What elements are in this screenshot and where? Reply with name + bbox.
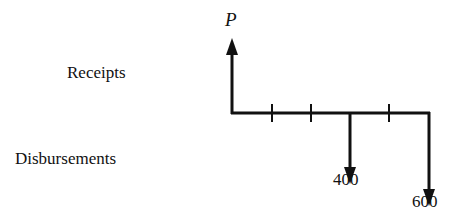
amount-400-label: 400 xyxy=(333,171,359,188)
present-value-label: P xyxy=(225,10,237,29)
amount-600-label: 600 xyxy=(412,193,438,210)
receipt-arrow-p xyxy=(226,38,238,114)
cash-flow-diagram xyxy=(0,0,461,224)
